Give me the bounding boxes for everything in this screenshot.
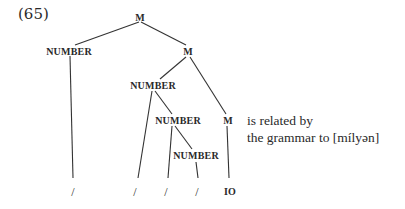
edge-left-number-leaf1	[70, 56, 73, 178]
node-right-m: M	[183, 46, 193, 57]
node-mid-number: NUMBER	[130, 80, 176, 91]
caption: is related by the grammar to [mílyən]	[247, 112, 379, 146]
edge-mid-number-inner-number	[155, 91, 172, 114]
node-lower-m: M	[223, 115, 233, 126]
node-inner-number: NUMBER	[155, 115, 201, 126]
node-left-number: NUMBER	[46, 46, 92, 57]
edge-mid-number-leaf2	[138, 91, 152, 178]
leaf-io: IO	[224, 186, 236, 197]
leaf-3: /	[164, 185, 168, 199]
leaf-2: /	[133, 185, 137, 199]
tree-diagram: M NUMBER M NUMBER NUMBER M NUMBER / / / …	[0, 0, 405, 209]
edge-root-right-m	[141, 22, 186, 45]
edge-inner-number-leaf3	[168, 126, 172, 178]
edge-deepest-number-leaf4	[196, 162, 198, 178]
edge-inner-number-deepest-number	[175, 126, 192, 149]
leaf-4: /	[195, 185, 199, 199]
edge-right-m-lower-m	[190, 57, 226, 114]
edge-right-m-mid-number	[160, 57, 186, 79]
node-deepest-number: NUMBER	[173, 150, 219, 161]
caption-line-2: the grammar to [mílyən]	[247, 129, 379, 146]
edge-root-left-number	[75, 22, 139, 45]
node-root-m: M	[135, 12, 145, 23]
leaf-1: /	[71, 185, 75, 199]
edge-lower-m-io	[227, 126, 229, 178]
caption-line-1: is related by	[247, 112, 379, 129]
